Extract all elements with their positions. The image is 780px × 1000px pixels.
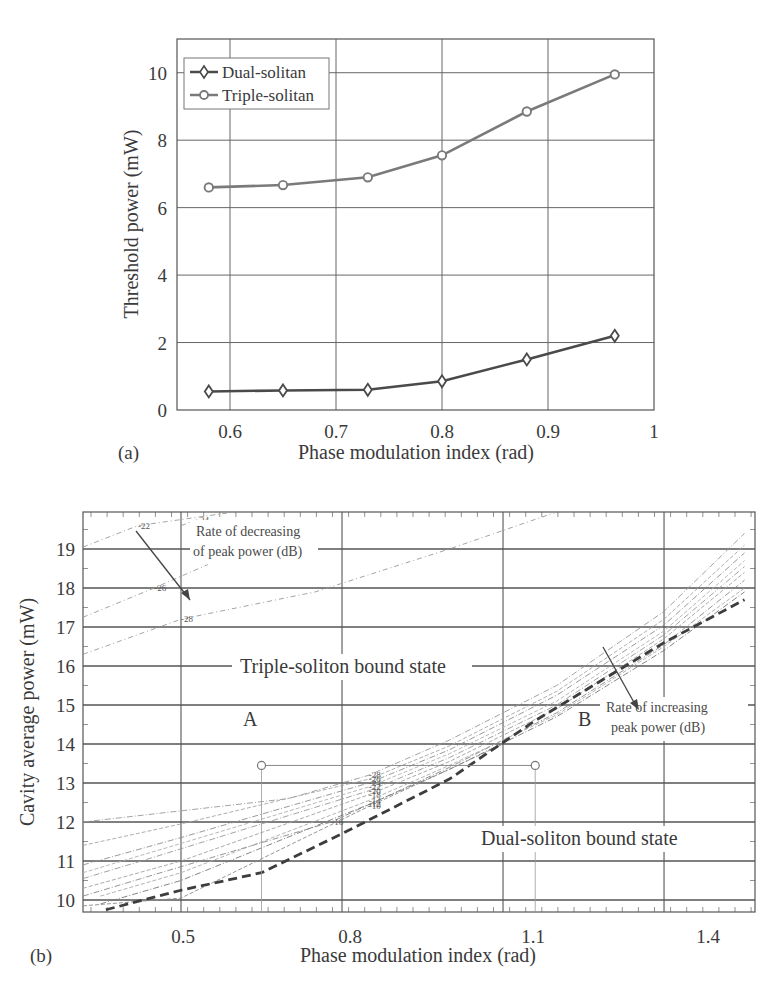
chart-b-x-axis-title: Phase modulation index (rad) [300,944,536,967]
contour-line [83,744,503,906]
circle-marker-icon [200,91,208,99]
region-label-triple: Triple-soliton bound state [240,655,446,678]
panel-label-a: (a) [118,442,139,464]
diamond-marker-icon [523,353,531,365]
y-tick-label: 13 [56,773,75,794]
circle-marker-icon [205,183,213,191]
chart-a-x-tick-labels: 0.60.70.80.91 [218,421,659,442]
diamond-marker-icon [364,384,372,396]
chart-a-series [205,70,619,397]
chart-b-y-tick-labels: 10111213141516171819 [56,539,76,911]
chart-a-legend: Dual-solitan Triple-solitan [184,58,329,109]
circle-marker-icon [523,107,531,115]
chart-a-threshold-power: 0246810 0.60.70.80.91 Dual-solitan Tripl… [118,39,659,464]
legend-dual-solitan: Dual-solitan [222,63,307,82]
diamond-marker-icon [279,384,287,396]
y-tick-label: 0 [158,400,168,421]
chart-a-y-tick-labels: 0246810 [148,63,168,421]
region-label-dual: Dual-soliton bound state [481,827,678,849]
boundary-dashed-line [106,600,745,910]
x-tick-label: 0.6 [218,421,242,442]
x-tick-label: 0.7 [324,421,348,442]
diamond-marker-icon [205,385,213,397]
point-a-label: A [243,708,258,730]
annotation-increasing-line1: Rate of increasing [606,700,708,715]
circle-marker-icon [611,70,619,78]
y-tick-label: 10 [148,63,167,84]
x-tick-label: 0.8 [430,421,454,442]
y-tick-label: 10 [56,890,75,911]
x-tick-label: 0.9 [536,421,560,442]
y-tick-label: 4 [158,265,168,286]
y-tick-label: 15 [56,695,75,716]
legend-triple-solitan: Triple-solitan [222,86,314,105]
panel-label-b: (b) [30,945,52,967]
contour-level-label: -26 [154,583,166,593]
chart-b-cavity-power: -22-24-26-28-28-26-24-22-20-18-16-14-12-… [16,512,755,967]
annotation-increasing-line2: peak power (dB) [611,720,705,736]
chart-b-a-b-segment: A B [243,708,591,912]
contour-level-label: -28 [181,614,193,624]
annotation-decreasing-line1: Rate of decreasing [196,524,300,539]
x-tick-label: 1 [649,421,659,442]
diamond-marker-icon [438,375,446,387]
contour-line [83,565,208,618]
chart-a-x-axis-title: Phase modulation index (rad) [298,441,534,464]
contour-level-label: -10 [369,801,381,811]
annotation-decreasing-line2: of peak power (dB) [193,544,303,560]
circle-marker-icon [364,173,372,181]
y-tick-label: 2 [158,333,168,354]
point-a-marker-icon [258,761,266,769]
point-b-marker-icon [531,761,539,769]
series-line [209,336,615,392]
y-tick-label: 14 [56,734,76,755]
circle-marker-icon [438,151,446,159]
y-tick-label: 8 [158,130,168,151]
y-tick-label: 16 [56,656,75,677]
x-tick-label: 1.4 [696,926,720,947]
diamond-marker-icon [611,330,619,342]
contour-level-label: -22 [138,521,150,531]
y-tick-label: 11 [57,851,75,872]
x-tick-label: 0.5 [171,926,195,947]
figure: 0246810 0.60.70.80.91 Dual-solitan Tripl… [0,0,780,1000]
contour-line [100,592,744,904]
chart-b-y-axis-title: Cavity average power (mW) [16,598,39,826]
chart-b-boundary-dashed [106,600,745,910]
y-tick-label: 19 [56,539,75,560]
chart-a-y-axis-title: Threshold power (mW) [120,130,143,319]
point-b-label: B [578,708,591,730]
y-tick-label: 12 [56,812,75,833]
y-tick-label: 6 [158,198,168,219]
circle-marker-icon [279,181,287,189]
y-tick-label: 17 [56,617,75,638]
y-tick-label: 18 [56,578,75,599]
